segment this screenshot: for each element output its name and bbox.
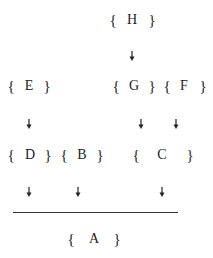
node-label: A bbox=[89, 232, 99, 246]
close-brace: } bbox=[43, 79, 50, 94]
open-brace: { bbox=[60, 148, 67, 163]
down-arrow-icon bbox=[172, 115, 180, 125]
close-brace: } bbox=[96, 148, 103, 163]
close-brace: } bbox=[148, 79, 155, 94]
down-arrow-icon bbox=[137, 115, 145, 125]
down-arrow-icon bbox=[128, 47, 136, 57]
open-brace: { bbox=[7, 148, 14, 163]
open-brace: { bbox=[132, 148, 139, 163]
node-label: G bbox=[129, 79, 139, 93]
down-arrow-icon bbox=[25, 115, 33, 125]
node-label: H bbox=[127, 13, 137, 27]
down-arrow-icon bbox=[25, 183, 33, 193]
close-brace: } bbox=[186, 148, 193, 163]
node-label: E bbox=[25, 79, 34, 93]
down-arrow-icon bbox=[74, 183, 82, 193]
close-brace: } bbox=[113, 232, 120, 247]
open-brace: { bbox=[112, 79, 119, 94]
node-label: D bbox=[25, 148, 35, 162]
close-brace: } bbox=[199, 79, 206, 94]
node-label: C bbox=[157, 148, 166, 162]
down-arrow-icon bbox=[158, 183, 166, 193]
close-brace: } bbox=[44, 148, 51, 163]
open-brace: { bbox=[163, 79, 170, 94]
open-brace: { bbox=[67, 232, 74, 247]
close-brace: } bbox=[148, 13, 155, 28]
open-brace: { bbox=[109, 13, 116, 28]
node-label: B bbox=[77, 148, 86, 162]
open-brace: { bbox=[7, 79, 14, 94]
node-label: F bbox=[180, 79, 188, 93]
horizontal-divider-line bbox=[13, 212, 178, 213]
